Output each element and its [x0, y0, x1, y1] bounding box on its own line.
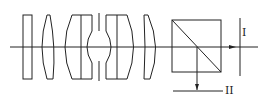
arrow-to-image-plane-2 — [195, 84, 199, 90]
image-plane-2-label: II — [225, 85, 234, 96]
arrow-to-image-plane-1 — [229, 45, 236, 49]
image-plane-1-label: I — [242, 27, 246, 38]
